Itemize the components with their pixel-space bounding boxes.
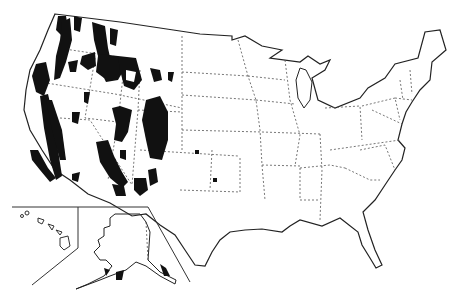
us-map [0,0,461,300]
